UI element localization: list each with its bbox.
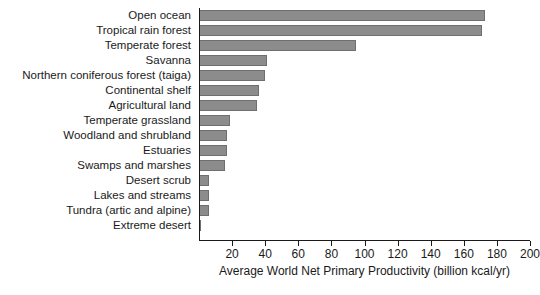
bar-row <box>199 113 530 128</box>
bar <box>199 55 267 66</box>
axis-tick-label: 40 <box>259 247 272 261</box>
axis-tick <box>331 241 332 246</box>
category-label: Extreme desert <box>0 218 194 233</box>
bar-row <box>199 53 530 68</box>
category-label: Temperate grassland <box>0 113 194 128</box>
category-label: Agricultural land <box>0 98 194 113</box>
plot-area: 20406080100120140160180200 <box>199 8 530 240</box>
category-label: Woodland and shrubland <box>0 128 194 143</box>
axis-tick-label: 180 <box>487 247 507 261</box>
value-axis-line <box>199 8 200 240</box>
bar <box>199 205 209 216</box>
axis-tick-label: 120 <box>388 247 408 261</box>
category-label: Tropical rain forest <box>0 23 194 38</box>
category-label: Lakes and streams <box>0 188 194 203</box>
axis-tick <box>298 241 299 246</box>
axis-tick <box>530 241 531 246</box>
bar-row <box>199 218 530 233</box>
category-label: Savanna <box>0 53 194 68</box>
bar <box>199 145 227 156</box>
category-label: Swamps and marshes <box>0 158 194 173</box>
axis-tick <box>365 241 366 246</box>
axis-tick <box>431 241 432 246</box>
bar <box>199 175 209 186</box>
axis-tick <box>398 241 399 246</box>
bar <box>199 10 485 21</box>
category-label: Northern coniferous forest (taiga) <box>0 68 194 83</box>
bar-row <box>199 38 530 53</box>
bar <box>199 40 356 51</box>
bar-row <box>199 83 530 98</box>
axis-tick <box>265 241 266 246</box>
category-label: Desert scrub <box>0 173 194 188</box>
category-label: Continental shelf <box>0 83 194 98</box>
category-label: Estuaries <box>0 143 194 158</box>
value-axis-title: Average World Net Primary Productivity (… <box>199 264 530 278</box>
category-label: Tundra (artic and alpine) <box>0 203 194 218</box>
bar-row <box>199 23 530 38</box>
bar-row <box>199 98 530 113</box>
axis-tick-label: 80 <box>325 247 338 261</box>
bar <box>199 85 259 96</box>
bar-row <box>199 143 530 158</box>
axis-tick-label: 20 <box>225 247 238 261</box>
axis-tick-label: 160 <box>454 247 474 261</box>
bar-row <box>199 158 530 173</box>
value-axis-tick-labels: 20406080100120140160180200 <box>199 247 530 263</box>
axis-tick-label: 60 <box>292 247 305 261</box>
category-label: Temperate forest <box>0 38 194 53</box>
axis-tick <box>464 241 465 246</box>
axis-tick-label: 200 <box>520 247 540 261</box>
bar <box>199 100 257 111</box>
axis-tick <box>497 241 498 246</box>
axis-tick-label: 140 <box>421 247 441 261</box>
category-axis-labels: Open oceanTropical rain forestTemperate … <box>0 8 194 233</box>
category-label: Open ocean <box>0 8 194 23</box>
bar <box>199 25 482 36</box>
bar-row <box>199 203 530 218</box>
bar <box>199 130 227 141</box>
bar <box>199 70 265 81</box>
bar-row <box>199 68 530 83</box>
axis-tick <box>232 241 233 246</box>
bar <box>199 160 225 171</box>
bar-row <box>199 188 530 203</box>
bar-row <box>199 173 530 188</box>
bar <box>199 115 230 126</box>
bar-series <box>199 8 530 233</box>
bar-row <box>199 8 530 23</box>
bar-row <box>199 128 530 143</box>
axis-tick-label: 100 <box>354 247 374 261</box>
bar <box>199 190 209 201</box>
